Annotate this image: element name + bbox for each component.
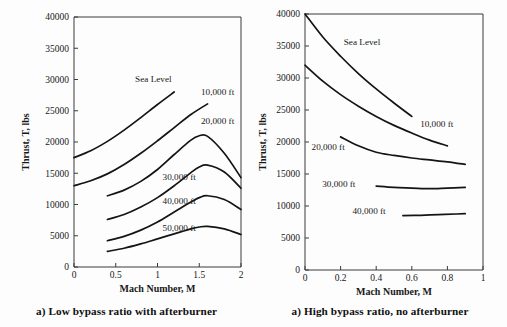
curve-label: 10,000 ft bbox=[420, 119, 454, 129]
x-tick-label: 0 bbox=[72, 270, 77, 280]
curve-40-000-ft bbox=[403, 214, 465, 216]
y-tick-label: 20000 bbox=[45, 137, 69, 147]
y-tick-label: 25000 bbox=[45, 106, 69, 116]
y-tick-label: 40000 bbox=[45, 12, 69, 22]
chart-panel-high-bypass: 0500010000150002000025000300003500040000… bbox=[253, 0, 507, 327]
y-axis-title: Thrust, T, lbs bbox=[20, 113, 31, 171]
y-tick-label: 20000 bbox=[276, 137, 300, 147]
x-tick-label: 2 bbox=[239, 270, 244, 280]
y-tick-label: 0 bbox=[64, 262, 69, 272]
caption-low-bypass: a) Low bypass ratio with afterburner bbox=[0, 305, 253, 317]
y-tick-label: 35000 bbox=[45, 44, 69, 54]
x-tick-label: 1.5 bbox=[193, 270, 205, 280]
caption-high-bypass: a) High bypass ratio, no afterburner bbox=[253, 305, 507, 317]
y-tick-label: 10000 bbox=[45, 200, 69, 210]
y-tick-label: 30000 bbox=[276, 73, 300, 83]
curve-label: 20,000 ft bbox=[201, 116, 235, 126]
x-tick-label: 0.5 bbox=[110, 270, 122, 280]
curve-30-000-ft bbox=[376, 186, 465, 189]
x-tick-label: 0.6 bbox=[406, 273, 418, 283]
curve-label: 40,000 ft bbox=[352, 206, 386, 216]
plot-frame bbox=[74, 17, 241, 267]
x-tick-label: 1 bbox=[481, 273, 486, 283]
curve-label: 40,000 ft bbox=[163, 196, 197, 206]
y-tick-label: 10000 bbox=[276, 201, 300, 211]
figure-page: 0500010000150002000025000300003500040000… bbox=[0, 0, 507, 327]
curve-sea-level bbox=[305, 14, 412, 116]
curve-label: 50,000 ft bbox=[163, 223, 197, 233]
chart-panel-low-bypass: 0500010000150002000025000300003500040000… bbox=[0, 0, 253, 327]
x-tick-label: 0 bbox=[303, 273, 308, 283]
curve-label: 30,000 ft bbox=[163, 172, 197, 182]
chart-low-bypass: 0500010000150002000025000300003500040000… bbox=[0, 0, 253, 300]
y-tick-label: 0 bbox=[295, 265, 300, 275]
y-tick-label: 40000 bbox=[276, 9, 300, 19]
curve-label: 30,000 ft bbox=[322, 179, 356, 189]
curve-label: Sea Level bbox=[344, 37, 381, 47]
y-axis-title: Thrust, T, lbs bbox=[257, 113, 268, 171]
y-tick-label: 5000 bbox=[50, 231, 69, 241]
y-tick-label: 35000 bbox=[276, 41, 300, 51]
x-tick-label: 0.4 bbox=[370, 273, 382, 283]
x-tick-label: 0.2 bbox=[335, 273, 347, 283]
curve-label: 20,000 ft bbox=[312, 142, 346, 152]
curve-label: 10,000 ft bbox=[201, 87, 235, 97]
curve-20-000-ft bbox=[341, 137, 466, 165]
y-tick-label: 15000 bbox=[45, 169, 69, 179]
curve-sea-level bbox=[74, 92, 174, 158]
y-tick-label: 25000 bbox=[276, 105, 300, 115]
y-tick-label: 30000 bbox=[45, 75, 69, 85]
curve-label: Sea Level bbox=[135, 74, 172, 84]
x-tick-label: 1 bbox=[155, 270, 160, 280]
curve-10-000-ft bbox=[305, 65, 447, 146]
y-tick-label: 15000 bbox=[276, 169, 300, 179]
y-tick-label: 5000 bbox=[281, 233, 300, 243]
x-axis-title: Mach Number, M bbox=[119, 283, 196, 294]
x-axis-title: Mach Number, M bbox=[356, 286, 433, 297]
chart-high-bypass: 0500010000150002000025000300003500040000… bbox=[253, 0, 507, 300]
x-tick-label: 0.8 bbox=[441, 273, 453, 283]
